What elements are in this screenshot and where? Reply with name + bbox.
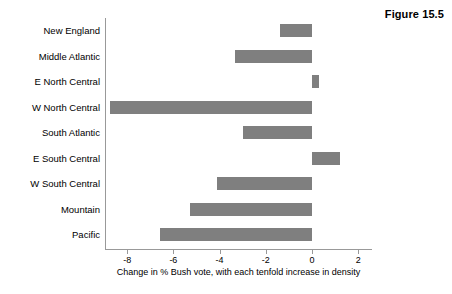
- category-label: Mountain: [0, 204, 100, 215]
- x-tick-label: 0: [297, 255, 327, 266]
- bar-row: [105, 95, 372, 121]
- bar-row: [105, 69, 372, 95]
- category-label: New England: [0, 25, 100, 36]
- x-tick-label: -6: [158, 255, 188, 266]
- plot-area: [105, 18, 372, 250]
- bar: [312, 152, 340, 165]
- x-axis-title: Change in % Bush vote, with each tenfold…: [105, 267, 372, 278]
- bar: [160, 228, 312, 241]
- bar: [190, 203, 312, 216]
- x-tick-mark: [220, 250, 221, 254]
- category-label: Middle Atlantic: [0, 51, 100, 62]
- bar-row: [105, 44, 372, 70]
- category-label: Pacific: [0, 229, 100, 240]
- bar: [243, 126, 312, 139]
- bar-row: [105, 120, 372, 146]
- category-label: W North Central: [0, 102, 100, 113]
- x-tick-label: -2: [251, 255, 281, 266]
- x-tick-mark: [127, 250, 128, 254]
- x-tick-mark: [312, 250, 313, 254]
- category-label: E South Central: [0, 153, 100, 164]
- x-axis-line: [105, 249, 372, 250]
- bar-row: [105, 197, 372, 223]
- bar-row: [105, 222, 372, 248]
- x-tick-mark: [266, 250, 267, 254]
- bar-row: [105, 146, 372, 172]
- x-tick-label: -8: [112, 255, 142, 266]
- x-tick-label: 2: [343, 255, 373, 266]
- bar: [217, 177, 312, 190]
- category-label: W South Central: [0, 178, 100, 189]
- bar: [312, 75, 319, 88]
- bar: [235, 50, 312, 63]
- bar: [280, 24, 312, 37]
- figure-number-label: Figure 15.5: [385, 8, 444, 20]
- bar: [110, 101, 312, 114]
- x-tick-label: -4: [205, 255, 235, 266]
- x-tick-mark: [173, 250, 174, 254]
- bar-row: [105, 18, 372, 44]
- category-label: E North Central: [0, 76, 100, 87]
- category-label: South Atlantic: [0, 127, 100, 138]
- bar-row: [105, 171, 372, 197]
- figure-root: Figure 15.5 New EnglandMiddle AtlanticE …: [0, 0, 452, 294]
- x-tick-mark: [358, 250, 359, 254]
